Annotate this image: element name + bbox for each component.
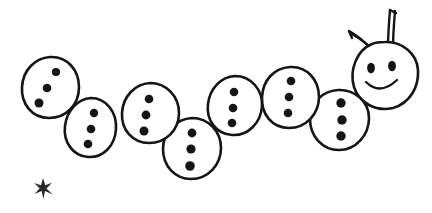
body-dot bbox=[285, 93, 294, 102]
body-dot bbox=[186, 144, 195, 153]
body-dot bbox=[87, 125, 96, 134]
body-segment-3-outline bbox=[122, 83, 179, 143]
body-dot bbox=[35, 99, 44, 108]
eye-right bbox=[388, 61, 396, 72]
body-dot bbox=[90, 109, 98, 117]
body-dot bbox=[84, 140, 93, 149]
body-segment-6 bbox=[262, 67, 319, 128]
body-segment-3 bbox=[122, 83, 179, 143]
body-dot bbox=[229, 104, 238, 113]
body-dot bbox=[336, 98, 345, 107]
caterpillar-illustration bbox=[0, 0, 432, 213]
body-dot bbox=[287, 77, 296, 86]
body-dot bbox=[145, 95, 154, 104]
body-dot bbox=[230, 88, 239, 97]
body-dot bbox=[43, 84, 52, 93]
body-dot bbox=[140, 127, 149, 136]
body-dot bbox=[142, 111, 151, 120]
body-dot bbox=[336, 131, 345, 140]
eye-left bbox=[367, 63, 375, 74]
body-segment-5 bbox=[208, 76, 262, 135]
body-dot bbox=[337, 115, 346, 124]
body-dot bbox=[188, 129, 197, 138]
body-dot bbox=[228, 119, 237, 128]
body-dot bbox=[52, 68, 60, 76]
body-dot bbox=[284, 109, 293, 118]
drawing-canvas bbox=[0, 0, 432, 213]
body-dot bbox=[185, 161, 195, 171]
body-segment-1 bbox=[22, 57, 79, 118]
